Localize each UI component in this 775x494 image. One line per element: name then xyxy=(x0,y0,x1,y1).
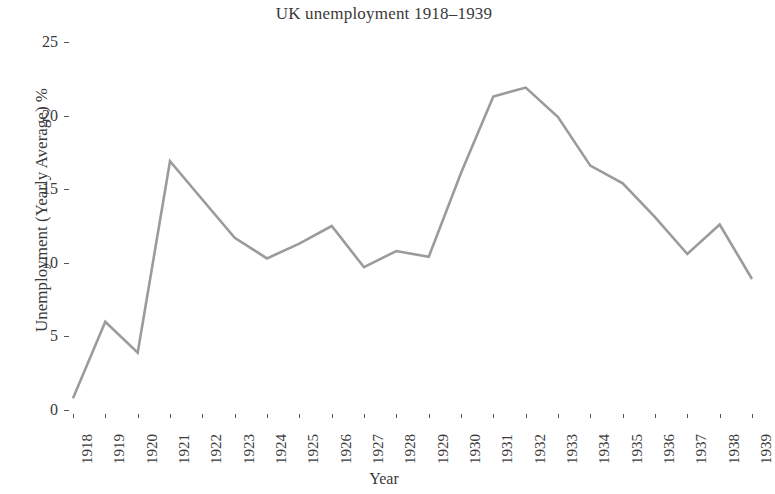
series-polyline xyxy=(73,88,752,399)
x-axis-label: Year xyxy=(0,470,768,488)
